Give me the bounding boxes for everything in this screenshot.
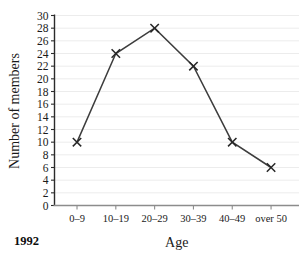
y-tick-label: 30 xyxy=(37,10,49,22)
year-label: 1992 xyxy=(14,234,39,248)
y-axis: 024681012141618202224262830 xyxy=(37,10,55,212)
y-tick-label: 22 xyxy=(37,60,49,72)
x-axis-title: Age xyxy=(165,235,188,250)
line-chart: 0246810121416182022242628300–910–1920–29… xyxy=(0,0,301,269)
y-tick-label: 4 xyxy=(43,174,49,186)
y-tick-label: 28 xyxy=(37,22,49,34)
y-tick-label: 14 xyxy=(37,111,49,123)
y-tick-label: 18 xyxy=(37,86,49,98)
x-tick-label: 10–19 xyxy=(103,213,129,224)
y-tick-label: 12 xyxy=(37,124,49,136)
y-tick-label: 10 xyxy=(37,136,49,148)
y-tick-label: 8 xyxy=(43,149,49,161)
x-tick-label: over 50 xyxy=(255,213,287,224)
y-tick-label: 20 xyxy=(37,73,49,85)
x-tick-label: 0–9 xyxy=(69,213,85,224)
data-series xyxy=(73,24,275,172)
x-tick-label: 30–39 xyxy=(180,213,206,224)
y-tick-label: 24 xyxy=(37,48,49,60)
x-tick-label: 40–49 xyxy=(219,213,245,224)
y-tick-label: 26 xyxy=(37,35,49,47)
y-tick-label: 2 xyxy=(43,187,49,199)
gridlines xyxy=(55,16,300,193)
y-tick-label: 16 xyxy=(37,98,49,110)
x-axis: 0–910–1920–2930–3940–49over 50 xyxy=(54,206,300,224)
chart-figure: 0246810121416182022242628300–910–1920–29… xyxy=(0,0,301,269)
x-tick-label: 20–29 xyxy=(142,213,168,224)
y-axis-title: Number of members xyxy=(7,53,22,169)
y-tick-label: 6 xyxy=(43,162,49,174)
y-tick-label: 0 xyxy=(43,200,49,212)
data-line xyxy=(77,28,271,167)
